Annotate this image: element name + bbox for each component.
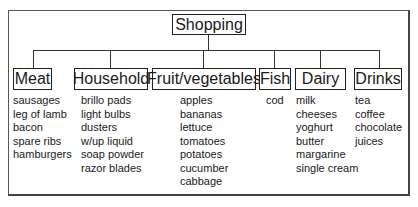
list-item: sausages: [13, 94, 72, 108]
category-node-meat: Meat: [13, 68, 52, 90]
item-list-fruit-vegetables: apples bananas lettuce tomatoes potatoes…: [180, 94, 228, 189]
list-item: hamburgers: [13, 148, 72, 162]
list-item: soap powder: [81, 148, 144, 162]
item-list-meat: sausages leg of lamb bacon spare ribs ha…: [13, 94, 72, 162]
category-label: Fruit/vegetables: [147, 71, 261, 87]
list-item: chocolate: [355, 121, 402, 135]
root-node-shopping: Shopping: [172, 14, 246, 35]
category-node-household: Household: [74, 68, 148, 90]
list-item: coffee: [355, 108, 402, 122]
list-item: cheeses: [296, 108, 358, 122]
list-item: dusters: [81, 121, 144, 135]
horizontal-connector: [33, 50, 380, 51]
list-item: margarine: [296, 148, 358, 162]
connector-fish: [274, 50, 275, 68]
list-item: apples: [180, 94, 228, 108]
item-list-fish: cod: [266, 94, 284, 108]
list-item: single cream: [296, 162, 358, 176]
list-item: brillo pads: [81, 94, 144, 108]
list-item: bacon: [13, 121, 72, 135]
list-item: yoghurt: [296, 121, 358, 135]
item-list-dairy: milk cheeses yoghurt butter margarine si…: [296, 94, 358, 175]
category-label: Household: [73, 71, 150, 87]
root-connector: [208, 35, 209, 50]
category-label: Drinks: [355, 71, 400, 87]
list-item: tea: [355, 94, 402, 108]
list-item: cabbage: [180, 175, 228, 189]
list-item: juices: [355, 135, 402, 149]
list-item: tomatoes: [180, 135, 228, 149]
item-list-drinks: tea coffee chocolate juices: [355, 94, 402, 148]
category-node-fruit-vegetables: Fruit/vegetables: [152, 68, 256, 90]
item-list-household: brillo pads light bulbs dusters w/up liq…: [81, 94, 144, 175]
list-item: bananas: [180, 108, 228, 122]
list-item: spare ribs: [13, 135, 72, 149]
category-node-dairy: Dairy: [295, 68, 346, 90]
category-label: Dairy: [302, 71, 339, 87]
category-node-drinks: Drinks: [354, 68, 402, 90]
list-item: lettuce: [180, 121, 228, 135]
list-item: cucumber: [180, 162, 228, 176]
connector-fruit-vegetables: [203, 50, 204, 68]
list-item: light bulbs: [81, 108, 144, 122]
category-label: Meat: [15, 71, 51, 87]
list-item: razor blades: [81, 162, 144, 176]
category-node-fish: Fish: [259, 68, 291, 90]
list-item: potatoes: [180, 148, 228, 162]
list-item: w/up liquid: [81, 135, 144, 149]
root-label: Shopping: [175, 17, 243, 33]
list-item: butter: [296, 135, 358, 149]
connector-household: [110, 50, 111, 68]
category-label: Fish: [260, 71, 290, 87]
connector-dairy: [320, 50, 321, 68]
list-item: cod: [266, 94, 284, 108]
connector-meat: [33, 50, 34, 68]
list-item: leg of lamb: [13, 108, 72, 122]
list-item: milk: [296, 94, 358, 108]
connector-drinks: [379, 50, 380, 68]
